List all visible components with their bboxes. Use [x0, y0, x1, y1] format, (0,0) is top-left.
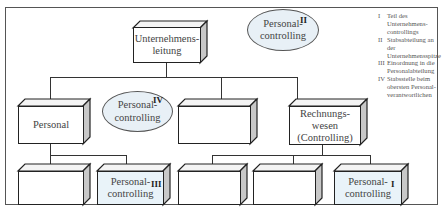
- legend-text: Stabsabteilung an der Unternehmensspitze: [387, 36, 442, 60]
- box-front: [18, 171, 84, 205]
- connector-rechnungswesen-horizontal: [212, 155, 371, 156]
- connector-to-rechnungswesen: [297, 77, 298, 100]
- box-bottom-blank-3: [253, 163, 322, 205]
- box-front: [178, 171, 241, 205]
- label-line: (Controlling): [297, 132, 352, 143]
- label-line: Personal-: [348, 176, 388, 187]
- box-personalcontrolling-i: Personal-controlling: [334, 163, 408, 205]
- box-front: Unternehmens-leitung: [133, 27, 201, 63]
- marker-iii: III: [151, 179, 162, 189]
- legend-text: Einordnung in die Personalabteilung: [387, 59, 442, 75]
- ellipse-personalcontrolling-ii: Personal-controlling: [247, 9, 319, 51]
- legend-marker: IV: [378, 75, 387, 99]
- label-line: Unternehmens-: [135, 33, 200, 44]
- label-line: Personal-: [263, 18, 303, 29]
- box-unternehmensleitung: Unternehmens-leitung: [133, 20, 207, 63]
- label-line: Rechnungs-: [300, 108, 350, 119]
- label-line: wesen: [312, 120, 338, 131]
- connector-personal-horizontal: [50, 155, 127, 156]
- box-personal: Personal: [18, 98, 90, 144]
- connector-top-down: [166, 63, 167, 78]
- connector-rechnungswesen-down: [322, 145, 323, 155]
- legend-item: IVStabsstelle beim obersten Personal-ver…: [378, 75, 442, 99]
- label-line: leitung: [152, 45, 181, 56]
- legend-marker: I: [378, 12, 387, 36]
- legend-item: ITeil des Unternehmens-controllings: [378, 12, 442, 36]
- legend-marker: III: [378, 59, 387, 75]
- box-front: Rechnungs-wesen(Controlling): [289, 106, 361, 145]
- connector-to-middle-blank: [221, 77, 222, 100]
- legend: ITeil des Unternehmens-controllings IISt…: [378, 12, 442, 99]
- label-line: Personal-: [111, 176, 151, 187]
- connector-level1-horizontal: [50, 77, 298, 78]
- box-front: Personal: [18, 106, 84, 144]
- marker-i: I: [391, 179, 395, 189]
- label-line: Personal: [33, 119, 69, 132]
- connector-to-personal: [50, 77, 51, 100]
- box-front: [178, 106, 251, 144]
- legend-item: IIStabsabteilung an der Unternehmensspit…: [378, 36, 442, 60]
- box-front: [253, 171, 316, 205]
- marker-ii: II: [300, 15, 307, 25]
- label-line: controlling: [107, 188, 153, 199]
- box-bottom-blank-1: [18, 163, 90, 205]
- box-bottom-blank-2: [178, 163, 247, 205]
- box-rechnungswesen: Rechnungs-wesen(Controlling): [289, 98, 367, 145]
- label-line: Personal-: [118, 99, 158, 110]
- org-chart-diagram: Unternehmens-leitung Personal-controllin…: [0, 0, 444, 215]
- label-line: controlling: [345, 188, 391, 199]
- legend-text: Teil des Unternehmens-controllings: [387, 12, 442, 36]
- legend-item: IIIEinordnung in die Personalabteilung: [378, 59, 442, 75]
- label-line: controlling: [114, 112, 160, 123]
- marker-iv: IV: [153, 95, 163, 105]
- label-line: controlling: [260, 30, 306, 41]
- legend-text: Stabsstelle beim obersten Personal-veran…: [387, 75, 442, 99]
- legend-marker: II: [378, 36, 387, 60]
- box-middle-blank: [178, 98, 257, 144]
- connector-personal-down: [50, 144, 51, 155]
